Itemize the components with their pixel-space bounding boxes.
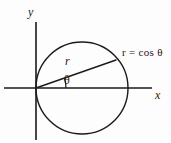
diagram-canvas <box>0 0 171 143</box>
radius-vector <box>36 60 116 88</box>
y-axis-label: y <box>28 6 33 18</box>
radius-label: r <box>65 55 70 67</box>
curve-equation-label: r = cos θ <box>122 47 163 58</box>
angle-label: θ <box>64 74 70 86</box>
x-axis-label: x <box>155 89 160 101</box>
polar-circle-diagram: y x r θ r = cos θ <box>0 0 171 143</box>
